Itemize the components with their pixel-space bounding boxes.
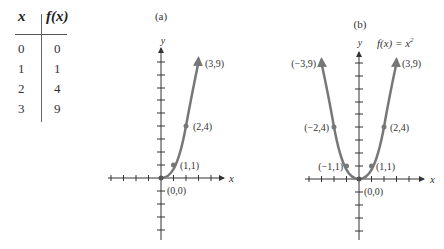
graph-b-label: (b) xyxy=(354,18,367,31)
graph-a-curve-arrow-icon xyxy=(198,58,199,66)
graph-a: (a) y x xyxy=(108,10,234,240)
graphs-canvas: (a) y x xyxy=(0,0,444,249)
graph-a-point xyxy=(184,124,189,129)
graph-a-point-label: (3,9) xyxy=(205,58,224,70)
graph-b-point xyxy=(344,164,349,169)
graph-b-point-label: (1,1) xyxy=(376,161,395,173)
graph-a-point-label: (2,4) xyxy=(193,121,212,133)
graph-b-y-axis-label: y xyxy=(357,37,363,48)
graph-b-point-label: (−1,1) xyxy=(318,161,343,173)
graph-b-x-axis-label: x xyxy=(429,173,435,185)
graph-b-point-label: (3,9) xyxy=(402,58,421,70)
graph-a-point-label: (0,0) xyxy=(167,185,186,197)
graph-a-label: (a) xyxy=(155,10,168,23)
graph-b-point xyxy=(357,177,362,182)
graph-b-point xyxy=(369,164,374,169)
graph-b-point xyxy=(332,125,337,130)
graph-b-point-label: (2,4) xyxy=(390,122,409,134)
graph-b: (b) y f(x) = x2 x xyxy=(291,18,435,240)
graph-b-function-label: f(x) = x2 xyxy=(377,36,414,50)
graph-b-point xyxy=(382,125,387,130)
graph-b-curve-left-arrow-icon xyxy=(322,59,323,67)
graph-a-point xyxy=(159,176,164,181)
graph-a-point xyxy=(171,163,176,168)
graph-a-point-label: (1,1) xyxy=(180,160,199,172)
graph-a-x-axis-label: x xyxy=(228,172,234,184)
graph-b-point-label: (−3,9) xyxy=(291,58,316,70)
graph-b-curve-right-arrow-icon xyxy=(396,59,397,67)
graph-b-point-label: (0,0) xyxy=(364,186,383,198)
graph-a-y-axis-label: y xyxy=(160,35,166,46)
graph-b-point-label: (−2,4) xyxy=(304,122,329,134)
